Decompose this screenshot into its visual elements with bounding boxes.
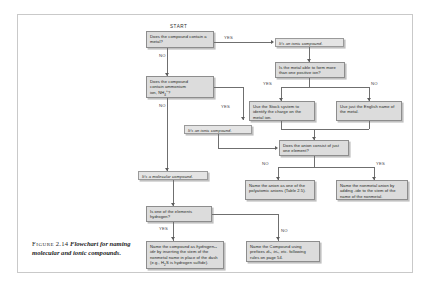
- node-question-anion-one-element[interactable]: Does the anion consist of just one eleme…: [279, 140, 349, 156]
- node-text-pre: Name the compound as: [150, 244, 196, 249]
- connector-positive-ion-down: [309, 78, 310, 87]
- connector-anion-split: [278, 167, 374, 168]
- edge-label-ammonium-yes: YES: [221, 104, 230, 109]
- connector-ionic-mid-down: [218, 134, 219, 148]
- node-question-multiple-positive-ions[interactable]: Is the metal able to form more than one …: [275, 62, 345, 78]
- arrowhead-molecular-to-hydrogen-question: [171, 203, 175, 206]
- connector-merge-to-anion-question: [281, 129, 369, 130]
- node-text-italic: di-, tri-,: [266, 249, 280, 254]
- arrowhead-ammonium-yes: [241, 117, 245, 120]
- node-text: Name the anion as one of the polyatomic …: [249, 183, 306, 193]
- arrowhead-ionic-mid-to-anion-question: [275, 146, 278, 150]
- node-action-english-name[interactable]: Use just the English name of the metal.: [336, 101, 402, 121]
- arrowhead-anion-yes: [372, 177, 376, 180]
- connector-anion-question-down: [314, 156, 315, 167]
- edge-label-ammonium-no: NO: [159, 103, 166, 108]
- node-text: Is the metal able to form more than one …: [279, 65, 336, 75]
- connector-ionic-mid-right: [218, 148, 276, 149]
- arrowhead-metal-yes: [271, 40, 274, 44]
- arrowhead-hydrogen-no: [276, 237, 280, 240]
- node-text: It's an ionic compound.: [279, 41, 323, 46]
- node-result-ionic-compound-middle[interactable]: It's an ionic compound.: [184, 125, 252, 134]
- arrowhead-anion-no: [276, 177, 280, 180]
- edge-label-hydrogen-yes: YES: [159, 226, 168, 231]
- connector-ammonium-yes-h: [214, 87, 243, 88]
- node-result-molecular-compound[interactable]: It's a molecular compound.: [138, 171, 208, 180]
- node-text-line1: Does the compound: [150, 79, 188, 84]
- node-text-line3: ion, NH: [150, 90, 164, 95]
- node-text: Name the nonmetal anion by adding -ide t…: [340, 183, 396, 199]
- node-question-contains-hydrogen[interactable]: Is one of the elements hydrogen?: [146, 206, 212, 222]
- connector-positive-ion-split: [281, 87, 369, 88]
- edge-label-hydrogen-no: NO: [281, 228, 288, 233]
- figure-frame: START Does the compound contain a metal?…: [17, 14, 413, 273]
- node-question-contains-ammonium[interactable]: Does the compound contain ammonium ion, …: [146, 76, 214, 98]
- node-text: Is one of the elements hydrogen?: [150, 209, 192, 219]
- edge-label-metal-yes: YES: [224, 35, 233, 40]
- edge-label-metal-no: NO: [159, 53, 166, 58]
- edge-label-anion-yes: YES: [376, 161, 385, 166]
- arrowhead-metal-no: [165, 73, 169, 76]
- node-action-hydrogen-ide-name[interactable]: Name the compound as hydrogen--ide by in…: [146, 241, 224, 269]
- edge-label-anion-no: NO: [262, 161, 269, 166]
- connector-metal-no: [167, 48, 168, 76]
- ammonium-subscript: 4: [164, 93, 166, 97]
- node-text-post: S is hydrogen sulfide).: [166, 260, 208, 265]
- figure-caption: Figure 2.14 Flowchart for naming molecul…: [32, 240, 136, 257]
- arrowhead-positive-ion-no: [367, 98, 371, 101]
- node-text: Does the compound contain a metal?: [150, 34, 207, 44]
- node-text-line3-end: ?: [168, 90, 170, 95]
- node-action-nonmetal-anion[interactable]: Name the nonmetal anion by adding -ide t…: [336, 180, 408, 200]
- connector-hydrogen-no-h: [212, 214, 278, 215]
- node-question-contains-metal[interactable]: Does the compound contain a metal?: [146, 31, 214, 48]
- caption-number: 2.14: [56, 240, 69, 247]
- edge-label-positive-ion-no: NO: [371, 81, 378, 86]
- connector-english-down: [369, 121, 370, 129]
- node-action-stock-system[interactable]: Use the Stock system to identify the cha…: [249, 101, 315, 121]
- node-text: Use just the English name of the metal.: [340, 104, 394, 114]
- start-label: START: [170, 24, 187, 29]
- node-text: It's an ionic compound.: [188, 128, 232, 133]
- caption-label: Figure: [32, 240, 54, 247]
- arrowhead-hydrogen-yes: [171, 237, 175, 240]
- node-text: It's a molecular compound.: [142, 174, 193, 179]
- connector-ammonium-no: [167, 98, 168, 171]
- edge-label-positive-ion-yes: YES: [263, 81, 272, 86]
- connector-stock-down: [281, 121, 282, 129]
- arrowhead-positive-ion-yes: [279, 98, 283, 101]
- arrowhead-merge-to-anion-question: [312, 137, 316, 140]
- node-action-polyatomic-anion[interactable]: Name the anion as one of the polyatomic …: [245, 180, 315, 200]
- node-text: Does the anion consist of just one eleme…: [283, 143, 339, 153]
- node-action-prefix-name[interactable]: Name the Compound using prefixes di-, tr…: [246, 241, 320, 262]
- arrowhead-ammonium-no: [165, 168, 169, 171]
- connector-ammonium-yes-v: [243, 87, 244, 120]
- node-result-ionic-compound-top[interactable]: It's an ionic compound.: [275, 38, 344, 47]
- arrowhead-ionic-to-positive-ion: [307, 59, 311, 62]
- connector-metal-yes: [214, 42, 272, 43]
- node-text: Use the Stock system to identify the cha…: [253, 104, 301, 120]
- figure-container: START Does the compound contain a metal?…: [0, 0, 431, 290]
